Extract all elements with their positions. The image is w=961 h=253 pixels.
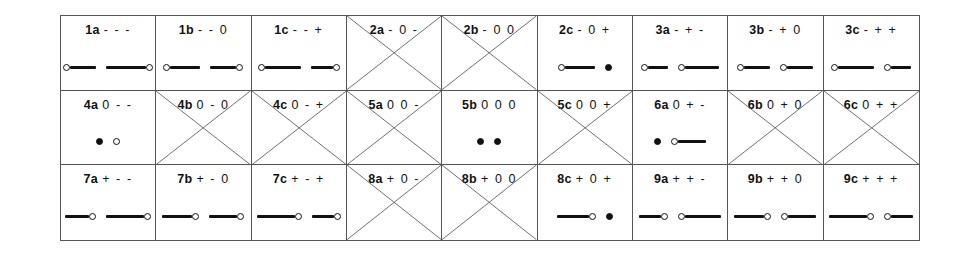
segment-bar [829, 215, 867, 218]
right-endpoint-icon [867, 213, 874, 220]
cell-code: 4c [273, 98, 288, 112]
cell-label: 9c+ + + [824, 172, 919, 186]
segment-bar [557, 215, 589, 218]
cell-code: 5b [462, 98, 477, 112]
cell-code: 7c [273, 172, 288, 186]
left-endpoint-icon [781, 213, 788, 220]
segment-bar [891, 215, 913, 218]
cell-code: 4b [177, 98, 192, 112]
left-endpoint-icon [558, 64, 565, 71]
cell-sign-pattern: - + - [674, 23, 705, 37]
point-marker [494, 135, 501, 149]
interval-segment [671, 135, 706, 149]
cell-3b: 3b- + 0 [728, 16, 823, 91]
interval-segment [557, 209, 596, 223]
cell-label: 5a0 0 - [347, 98, 441, 112]
interval-diagram [538, 203, 632, 229]
cell-code: 2a [370, 23, 385, 37]
interval-segment [829, 209, 874, 223]
right-endpoint-icon [661, 213, 668, 220]
cell-sign-pattern: 0 - - [102, 98, 132, 112]
interval-diagram [61, 203, 155, 229]
filled-point-icon [494, 138, 501, 145]
cell-sign-pattern: 0 - + [291, 98, 324, 112]
interval-diagram [728, 203, 822, 229]
interval-segment [210, 60, 243, 74]
cell-code: 3c [845, 23, 860, 37]
segment-bar [788, 215, 816, 218]
interval-segment [737, 60, 770, 74]
cell-sign-pattern: 0 0 + [576, 98, 612, 112]
segment-bar [257, 215, 295, 218]
cell-code: 1c [274, 23, 289, 37]
cell-4c: 4c0 - + [252, 91, 347, 166]
cell-sign-pattern: + + 0 [767, 172, 804, 186]
cell-2c: 2c- 0 + [538, 16, 633, 91]
cell-code: 2b [463, 23, 478, 37]
cell-sign-pattern: + 0 + [576, 172, 613, 186]
interval-segment [678, 60, 719, 74]
cell-label: 6a0 + - [633, 98, 727, 112]
interval-diagram [61, 54, 155, 80]
cell-2b: 2b- 0 0 [442, 16, 537, 91]
right-endpoint-icon [333, 64, 340, 71]
cell-sign-pattern: + + + [862, 172, 899, 186]
cell-sign-pattern: 0 - 0 [197, 98, 230, 112]
left-endpoint-icon [678, 64, 685, 71]
right-endpoint-icon [764, 213, 771, 220]
cell-label: 3a- + - [633, 23, 727, 37]
cell-1c: 1c- - + [252, 16, 347, 91]
cell-label: 1a- - - [61, 23, 155, 37]
interval-segment [312, 209, 341, 223]
cell-label: 2a- 0 - [347, 23, 441, 37]
cell-code: 9b [748, 172, 763, 186]
point-marker [654, 135, 661, 149]
segment-bar [265, 66, 301, 69]
cell-sign-pattern: + + - [673, 172, 707, 186]
cell-code: 7a [84, 172, 99, 186]
cell-label: 4c0 - + [252, 98, 346, 112]
interval-segment [163, 60, 200, 74]
interval-diagram [156, 203, 250, 229]
segment-bar [678, 140, 706, 143]
cell-9b: 9b+ + 0 [728, 165, 823, 240]
cell-sign-pattern: - - + [293, 23, 324, 37]
cell-label: 7c+ - + [252, 172, 346, 186]
cell-sign-pattern: - + 0 [768, 23, 801, 37]
cell-7a: 7a+ - - [61, 165, 156, 240]
cell-label: 3b- + 0 [728, 23, 822, 37]
segment-bar [648, 66, 668, 69]
right-endpoint-icon [89, 213, 96, 220]
interval-diagram [633, 129, 727, 155]
point-marker [477, 135, 484, 149]
left-endpoint-icon [831, 64, 838, 71]
filled-point-icon [477, 138, 484, 145]
segment-bar [891, 66, 911, 69]
filled-point-icon [605, 64, 612, 71]
segment-bar [565, 66, 595, 69]
right-endpoint-icon [334, 213, 341, 220]
interval-segment [734, 209, 771, 223]
cell-sign-pattern: + 0 0 [481, 172, 517, 186]
interval-diagram [824, 54, 919, 80]
segment-bar [210, 66, 236, 69]
cell-1b: 1b- - 0 [156, 16, 251, 91]
cell-code: 5c [557, 98, 572, 112]
filled-point-icon [96, 138, 103, 145]
right-endpoint-icon [589, 213, 596, 220]
cell-5c: 5c0 0 + [538, 91, 633, 166]
cell-4a: 4a0 - - [61, 91, 156, 166]
segment-bar [106, 66, 146, 69]
interval-diagram [61, 129, 155, 155]
cell-6c: 6c0 + + [824, 91, 919, 166]
cell-code: 6c [844, 98, 859, 112]
cell-8b: 8b+ 0 0 [442, 165, 537, 240]
left-endpoint-icon [258, 64, 265, 71]
left-endpoint-icon [163, 64, 170, 71]
cell-code: 8a [368, 172, 383, 186]
interval-diagram [633, 203, 727, 229]
cell-label: 8b+ 0 0 [442, 172, 536, 186]
cell-label: 1c- - + [252, 23, 346, 37]
interval-segment [106, 60, 153, 74]
cell-4b: 4b0 - 0 [156, 91, 251, 166]
